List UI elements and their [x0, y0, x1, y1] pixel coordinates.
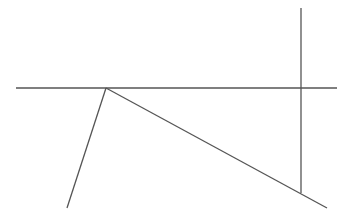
- diagonal-line: [106, 88, 327, 208]
- left-slant-line: [67, 88, 106, 208]
- geometry-diagram: [0, 0, 353, 214]
